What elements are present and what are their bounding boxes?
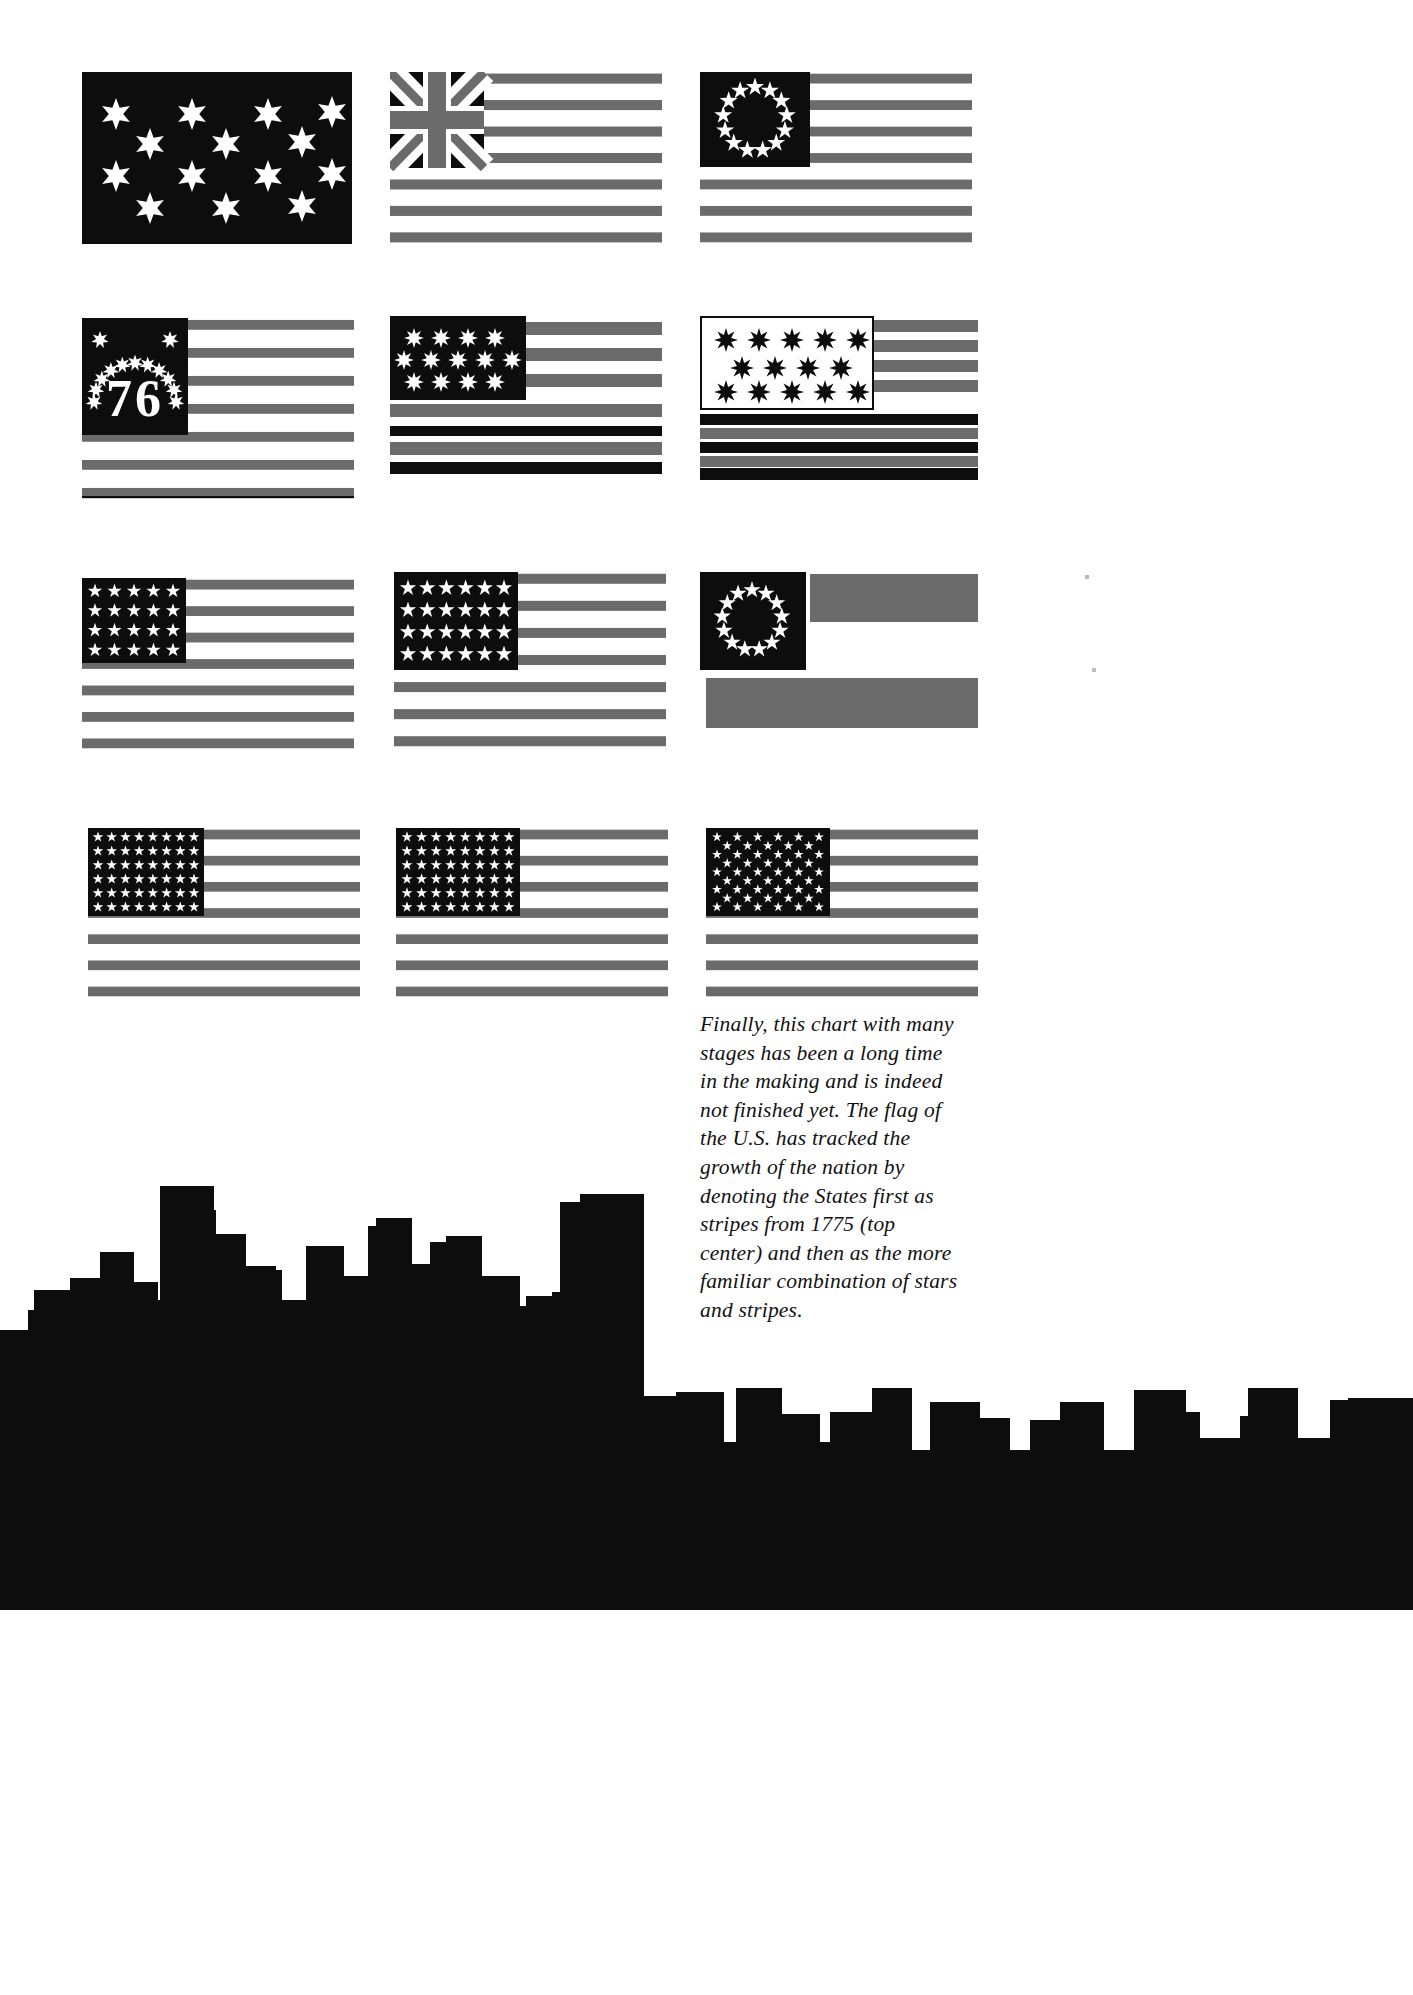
flag-thirty-eight-star [88, 828, 360, 998]
flag-continental-colors [82, 72, 352, 244]
stripe [518, 574, 666, 584]
star-icon [431, 328, 451, 348]
stripe [810, 100, 972, 110]
stripe [390, 206, 662, 216]
stripe [390, 426, 662, 436]
stripe [700, 206, 972, 216]
stripe [520, 830, 668, 840]
flag-4-svg: 76 [82, 318, 354, 500]
stripe [88, 987, 360, 997]
stripe [390, 179, 662, 189]
star-icon [404, 372, 424, 392]
stripe [874, 320, 978, 332]
star-icon [448, 350, 468, 370]
stripe [390, 442, 662, 455]
stripe [390, 232, 662, 242]
star-icon [458, 328, 478, 348]
stripe [188, 320, 354, 330]
star-icon [475, 350, 495, 370]
stripe [810, 74, 972, 84]
flag-6-svg [700, 316, 978, 482]
edge-speckle [1092, 668, 1096, 672]
stripe [830, 856, 978, 866]
stripe [394, 709, 666, 719]
stripe [186, 633, 354, 643]
stripe [82, 496, 354, 498]
stripe [874, 340, 978, 352]
stripe [700, 414, 978, 425]
stripe [520, 856, 668, 866]
union-jack-canton [390, 72, 484, 168]
star-icon [846, 328, 870, 352]
canton [88, 828, 204, 916]
canton [396, 828, 520, 916]
stripe [874, 360, 978, 372]
city-skyline-silhouette [0, 1150, 1413, 1610]
flag-fifty-star [706, 828, 978, 998]
star-icon [714, 380, 738, 404]
star-icon [747, 380, 771, 404]
stripe [484, 127, 662, 137]
stripe [526, 374, 662, 387]
flag-9-svg [700, 572, 978, 732]
star-icon [502, 350, 522, 370]
star-icon [394, 350, 414, 370]
stripe [82, 738, 354, 748]
stripe [390, 404, 662, 417]
flag-grand-union [390, 72, 662, 244]
star-icon [796, 356, 820, 380]
stripe [484, 100, 662, 110]
stripe [526, 322, 662, 335]
stripe [700, 428, 978, 439]
flag-10-svg [88, 828, 360, 998]
flag-3-svg [700, 72, 972, 244]
stripe [188, 376, 354, 386]
stripe [88, 934, 360, 944]
stripe [396, 960, 668, 970]
star-icon [431, 372, 451, 392]
star-icon [421, 350, 441, 370]
stripe [188, 404, 354, 414]
flag-2-svg [390, 72, 662, 244]
star-icon [485, 372, 505, 392]
stripe [706, 960, 978, 970]
stripe [186, 606, 354, 616]
stripe [706, 987, 978, 997]
stripe [518, 655, 666, 665]
flag-1-svg [82, 72, 352, 244]
stripe [518, 601, 666, 611]
flag-twenty-star [82, 578, 354, 750]
stripe [394, 736, 666, 746]
stripe [830, 882, 978, 892]
stripe [82, 460, 354, 470]
stripe [700, 180, 972, 190]
bennington-numeral: 76 [106, 370, 164, 427]
stripe [810, 127, 972, 137]
flag-white-canton-black-stars [700, 316, 978, 482]
stripe [874, 380, 978, 392]
flag-7-svg [82, 578, 354, 750]
stripe [810, 153, 972, 163]
stripe [700, 456, 978, 467]
stripe [82, 686, 354, 696]
star-icon [813, 380, 837, 404]
star-icon [747, 328, 771, 352]
stripe [526, 348, 662, 361]
stripe [484, 153, 662, 163]
stripe [188, 348, 354, 358]
stripe [700, 442, 978, 453]
stripe [396, 987, 668, 997]
stripe [706, 934, 978, 944]
stripe [700, 468, 978, 480]
stripe [484, 74, 662, 84]
star-icon [813, 328, 837, 352]
stripe [88, 960, 360, 970]
flag-bennington-76: 76 [82, 318, 354, 500]
stripe [520, 882, 668, 892]
stripe [82, 712, 354, 722]
stripe [186, 580, 354, 590]
star-icon [714, 328, 738, 352]
flag-wide-stripe-circle-star [700, 572, 978, 732]
star-icon [829, 356, 853, 380]
stripe [396, 934, 668, 944]
